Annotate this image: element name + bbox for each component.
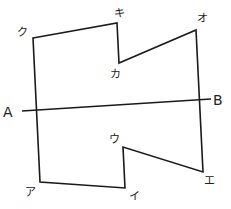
point-label-b: B — [213, 92, 223, 108]
vertex-label-a: ア — [25, 186, 36, 199]
point-label-a: A — [3, 104, 13, 120]
vertex-label-u: ウ — [109, 133, 120, 146]
vertex-label-ku: ク — [17, 26, 28, 39]
vertex-label-ki: キ — [114, 7, 125, 20]
diagram-canvas: ク キ カ オ エ ウ イ ア A B — [0, 0, 231, 209]
vertex-label-i: イ — [129, 190, 140, 203]
vertex-label-e: エ — [204, 174, 215, 187]
vertex-label-o: オ — [197, 12, 208, 25]
vertex-label-ka: カ — [110, 68, 121, 81]
line-segment-ab — [22, 99, 211, 111]
